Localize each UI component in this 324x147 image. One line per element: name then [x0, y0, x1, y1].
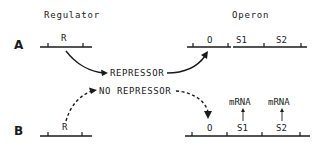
row-b-regulator-gene — [40, 132, 92, 136]
row-b-s2-label: S2 — [276, 123, 287, 133]
row-a-arrowhead-1 — [101, 70, 108, 77]
row-b-no-repressor-label: NO REPRESSOR — [99, 86, 171, 96]
row-a-s1-label: S1 — [236, 35, 247, 45]
row-b-dashed-arrow-to-operator — [176, 91, 208, 112]
row-b-label: B — [14, 124, 23, 138]
row-a-regulator-r-label: R — [61, 33, 67, 43]
row-b-s1-mrna-arrowhead — [241, 108, 245, 112]
row-b-operator-label: O — [207, 123, 212, 133]
regulator-heading: Regulator — [44, 10, 100, 20]
row-a-s2-label: S2 — [276, 35, 287, 45]
row-b-s1-mrna-label: mRNA — [229, 97, 251, 107]
row-a-arrow-to-repressor — [66, 51, 104, 73]
row-b-s2-mrna-arrowhead — [280, 108, 284, 112]
row-a-repressor-label: REPRESSOR — [110, 68, 164, 78]
row-a-label: A — [14, 38, 24, 52]
row-b-arrowhead-1 — [89, 88, 97, 95]
operon-regulation-diagram: Regulator Operon A R O S1 S2 REPRESSOR B… — [0, 0, 324, 147]
row-b-s2-mrna-label: mRNA — [268, 97, 290, 107]
row-a-operon-dna — [187, 43, 307, 47]
row-b-arrowhead-2 — [204, 111, 212, 119]
row-a-operator-label: O — [207, 35, 212, 45]
row-b-regulator-r-label: R — [62, 122, 68, 132]
row-b-s1-label: S1 — [237, 123, 248, 133]
row-a-arrow-to-operator — [167, 56, 205, 73]
row-b-dashed-arrow-to-no-repressor — [66, 91, 92, 121]
operon-heading: Operon — [232, 10, 269, 20]
row-a-regulator-gene — [40, 43, 92, 47]
